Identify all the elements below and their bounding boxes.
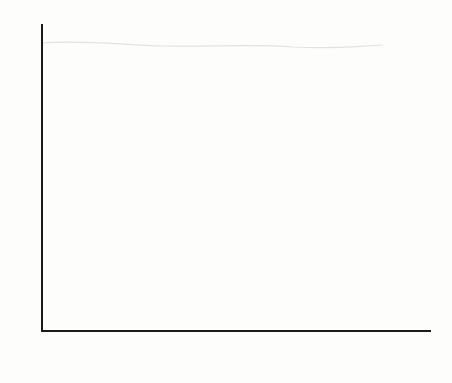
chart-page xyxy=(0,0,452,383)
plot-area xyxy=(41,24,431,332)
y-axis-line xyxy=(41,24,43,332)
x-axis-line xyxy=(41,330,431,332)
chart-legend xyxy=(355,20,450,24)
